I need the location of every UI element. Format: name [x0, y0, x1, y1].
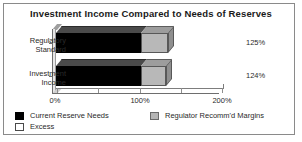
- x-tick-100: [140, 88, 141, 93]
- data-label-regulatory-standard: 125%: [246, 38, 265, 47]
- x-tick-label-200: 200%: [202, 96, 242, 105]
- bar-segment-current-reserve-needs: [56, 33, 142, 53]
- category-label-line-2: Standard: [36, 45, 66, 54]
- chart-container: Investment Income Compared to Needs of R…: [0, 0, 302, 142]
- legend-item-current-reserve-needs[interactable]: Current Reserve Needs: [15, 111, 109, 120]
- legend-label-current-reserve-needs: Current Reserve Needs: [30, 111, 109, 120]
- category-label-line-1: Investment: [29, 69, 66, 78]
- x-tick-0: [57, 88, 58, 93]
- category-label-line-2: Income: [41, 78, 66, 87]
- legend-swatch-gray-icon: [150, 112, 159, 120]
- category-label-regulatory-standard: Regulatory Standard: [30, 36, 66, 54]
- bar-segment-regulator-margins: [141, 33, 168, 53]
- bar-segment-current-reserve-needs-2: [56, 66, 142, 86]
- bar-end-face-regulatory-standard: [168, 26, 174, 53]
- legend-item-regulator-margins[interactable]: Regulator Recomm'd Margins: [150, 111, 264, 120]
- data-label-investment-income: 124%: [246, 71, 265, 80]
- x-tick-50: [98, 88, 99, 93]
- x-tick-150: [181, 88, 182, 93]
- legend-item-excess[interactable]: Excess: [15, 122, 54, 131]
- bar-top-face-reserve-needs-2: [56, 59, 147, 66]
- bar-segment-regulator-margins-2: [141, 66, 166, 86]
- legend-label-excess: Excess: [30, 122, 54, 131]
- legend-swatch-black-icon: [15, 112, 24, 120]
- value-axis-line: [52, 93, 219, 94]
- bar-top-face-reserve-needs: [56, 26, 147, 33]
- legend-swatch-white-icon: [15, 123, 24, 131]
- x-tick-label-100: 100%: [120, 96, 160, 105]
- plot-area: Regulatory Standard Investment Income 0%…: [0, 0, 302, 142]
- bar-investment-income[interactable]: [56, 66, 166, 86]
- x-tick-label-0: 0%: [39, 96, 71, 105]
- bar-regulatory-standard[interactable]: [56, 33, 168, 53]
- x-tick-200: [222, 88, 223, 93]
- category-label-investment-income: Investment Income: [29, 69, 66, 87]
- legend-label-regulator-margins: Regulator Recomm'd Margins: [165, 111, 264, 120]
- bar-end-face-investment-income: [166, 59, 172, 86]
- category-label-line-1: Regulatory: [30, 36, 66, 45]
